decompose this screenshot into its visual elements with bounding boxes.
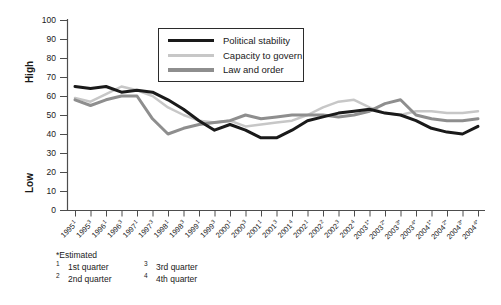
- legend-item: Law and order: [168, 64, 303, 75]
- y-tick-label: 80: [47, 53, 57, 63]
- y-tick-label: 40: [47, 129, 57, 139]
- footnote-text: 4th quarter: [156, 274, 232, 284]
- legend-line-swatch: [168, 68, 214, 72]
- footnote-sup: 4: [144, 272, 156, 282]
- y-tick-label: 60: [47, 91, 57, 101]
- legend-item-label: Capacity to govern: [223, 50, 302, 61]
- y-tick-label: 0: [51, 205, 56, 215]
- legend-item: Political stability: [168, 35, 303, 46]
- footnotes: *Estimated 1 1st quarter 3 3rd quarter 2…: [56, 250, 232, 284]
- footnote-sup: 3: [144, 260, 156, 270]
- x-tick-label: 20044*: [460, 218, 484, 242]
- y-tick-label: 50: [47, 110, 57, 120]
- y-tick-label: 90: [47, 34, 57, 44]
- y-tick-label: 10: [47, 186, 57, 196]
- y-tick-label: 100: [42, 15, 56, 25]
- legend-line-swatch: [168, 39, 214, 43]
- footnote-text: 3rd quarter: [156, 262, 232, 272]
- estimated-note: *Estimated: [56, 250, 232, 260]
- footnote-sup: 1: [56, 260, 68, 270]
- footnote-sup: 2: [56, 272, 68, 282]
- y-axis-label-low: Low: [24, 173, 35, 193]
- y-tick-label: 70: [47, 72, 57, 82]
- quarter-notes: 1 1st quarter 3 3rd quarter 2 2nd quarte…: [56, 262, 232, 284]
- y-axis-label-high: High: [24, 61, 35, 83]
- legend-item-label: Political stability: [223, 35, 290, 46]
- legend-item-label: Law and order: [223, 64, 284, 75]
- legend-item: Capacity to govern: [168, 50, 303, 61]
- y-tick-label: 30: [47, 148, 57, 158]
- legend: Political stability Capacity to govern L…: [158, 28, 304, 82]
- footnote-text: 2nd quarter: [68, 274, 144, 284]
- y-tick-label: 20: [47, 167, 57, 177]
- footnote-text: 1st quarter: [68, 262, 144, 272]
- legend-line-swatch: [168, 54, 214, 57]
- chart-figure: High Low 0102030405060708090100199511995…: [0, 0, 501, 305]
- series-line-law-and-order: [75, 96, 478, 134]
